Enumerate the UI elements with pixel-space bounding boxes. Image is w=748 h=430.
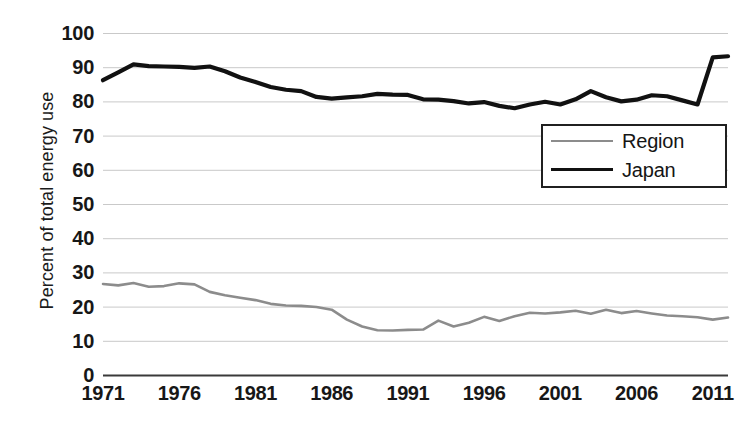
legend-item-japan: Japan	[543, 155, 725, 184]
data-series-layer	[103, 56, 728, 330]
line-chart: Percent of total energy use 100908070605…	[0, 0, 748, 430]
legend: Region Japan	[541, 124, 727, 188]
legend-label-region: Region	[622, 131, 684, 151]
legend-item-region: Region	[543, 126, 725, 155]
legend-swatch-region	[551, 140, 613, 142]
gridlines	[103, 34, 728, 376]
plot-area	[0, 0, 748, 430]
legend-label-japan: Japan	[622, 160, 676, 180]
series-line-japan	[103, 56, 728, 108]
legend-swatch-japan	[551, 168, 613, 171]
